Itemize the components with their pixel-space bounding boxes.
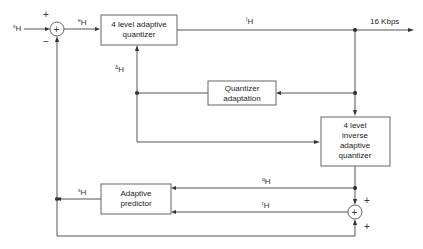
input-label: sH [13, 23, 22, 33]
arrow-icon [171, 210, 176, 214]
adaptive-quantizer-block: 4 level adaptive quantizer [101, 15, 177, 45]
r-label: rH [262, 200, 270, 210]
arrow-icon [353, 219, 357, 225]
svg-text:adaptive: adaptive [340, 141, 371, 150]
reconstruct-summer: + + + [348, 195, 370, 232]
input-signal: sH [13, 23, 50, 33]
arrow-icon [314, 140, 320, 144]
arrow-icon [55, 36, 59, 42]
difference-label: eH [78, 17, 87, 27]
output-rate-label: 16 Kbps [370, 17, 399, 26]
adaptive-predictor-block: Adaptive predictor [101, 184, 171, 214]
svg-text:−: − [43, 36, 49, 47]
svg-text:4 level: 4 level [343, 121, 366, 130]
svg-text:quantizer: quantizer [123, 30, 156, 39]
svg-text:+: + [43, 9, 49, 20]
svg-text:inverse: inverse [342, 131, 368, 140]
svg-text:quantizer: quantizer [339, 151, 372, 160]
step-label: ΔH [115, 64, 124, 74]
svg-text:4 level adaptive: 4 level adaptive [111, 20, 167, 29]
adpcm-encoder-diagram: sH + + − eH 4 level adaptive quantizer I… [0, 0, 423, 249]
svg-text:Quantizer: Quantizer [225, 84, 260, 93]
code-label: IH [246, 16, 253, 26]
inverse-quantizer-block: 4 level inverse adaptive quantizer [321, 117, 390, 166]
arrow-icon [276, 91, 281, 95]
svg-text:+: + [364, 195, 370, 206]
svg-text:+: + [352, 207, 358, 218]
arrow-icon [95, 27, 100, 31]
estimate-label: sH [78, 187, 87, 197]
svg-text:Adaptive: Adaptive [120, 189, 152, 198]
arrow-icon [408, 28, 414, 32]
svg-text:predictor: predictor [120, 199, 151, 208]
svg-text:adaptation: adaptation [223, 94, 260, 103]
arrow-icon [353, 110, 357, 116]
svg-text:+: + [364, 221, 370, 232]
svg-text:+: + [54, 24, 60, 35]
arrow-icon [353, 199, 357, 205]
arrow-icon [45, 27, 50, 31]
arrow-icon [171, 186, 176, 190]
dq-label: qH [262, 176, 271, 186]
arrow-icon [135, 45, 139, 51]
quantizer-adaptation-block: Quantizer adaptation [208, 81, 276, 105]
